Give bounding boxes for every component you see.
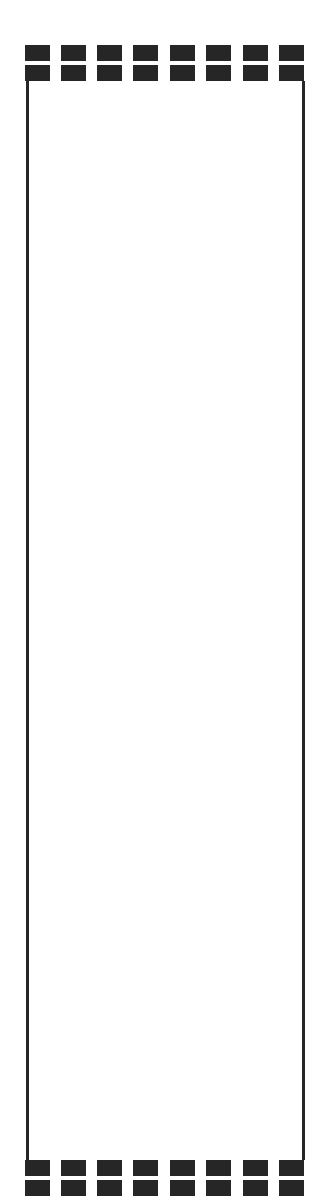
frame-content-area	[29, 81, 302, 1160]
frame-block	[170, 1160, 195, 1176]
frame-block	[243, 1180, 268, 1196]
frame-block	[206, 1160, 231, 1176]
frame-block	[61, 1160, 86, 1176]
bottom-block-row-2	[0, 1180, 321, 1196]
frame-block	[25, 65, 50, 81]
frame-block	[25, 45, 50, 61]
frame-block	[97, 65, 122, 81]
decorative-frame	[0, 0, 321, 1203]
frame-block	[61, 1180, 86, 1196]
frame-block	[97, 1160, 122, 1176]
frame-block	[133, 1180, 158, 1196]
frame-block	[170, 1180, 195, 1196]
frame-block	[279, 45, 304, 61]
frame-block	[206, 1180, 231, 1196]
frame-block	[97, 45, 122, 61]
top-block-row-1	[0, 45, 321, 61]
frame-block	[25, 1180, 50, 1196]
frame-block	[133, 1160, 158, 1176]
frame-block	[206, 45, 231, 61]
frame-block	[133, 65, 158, 81]
right-border-line	[302, 81, 305, 1160]
frame-block	[133, 45, 158, 61]
frame-block	[170, 65, 195, 81]
frame-block	[243, 65, 268, 81]
frame-block	[243, 1160, 268, 1176]
bottom-block-row-1	[0, 1160, 321, 1176]
frame-block	[25, 1160, 50, 1176]
frame-block	[61, 45, 86, 61]
frame-block	[279, 1160, 304, 1176]
frame-block	[243, 45, 268, 61]
left-border-line	[26, 81, 29, 1160]
top-block-row-2	[0, 65, 321, 81]
frame-block	[170, 45, 195, 61]
frame-block	[279, 65, 304, 81]
frame-block	[206, 65, 231, 81]
frame-block	[279, 1180, 304, 1196]
frame-block	[61, 65, 86, 81]
frame-block	[97, 1180, 122, 1196]
